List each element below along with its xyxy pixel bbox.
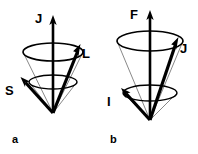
vector-F [146,10,153,120]
vector-label-F: F [130,7,138,22]
vector-I [121,88,150,120]
panel-b: F J I b [107,7,187,145]
vector-S [21,77,54,113]
vector-label-S: S [5,83,14,98]
panel-a: J L S a [5,11,90,145]
vector-label-I: I [107,94,111,109]
vector-label-J: J [180,41,187,56]
vector-I-shaft [126,94,150,121]
cone-side-left [117,41,150,120]
panel-caption-a: a [12,133,19,145]
vector-label-J: J [35,11,42,26]
vector-diagram: J L S a [0,0,198,154]
figure-canvas: J L S a [0,0,198,154]
vector-L [53,44,81,113]
vector-J-shaft [150,45,176,121]
panel-caption-b: b [110,133,117,145]
vector-label-L: L [82,46,90,61]
vector-J [49,15,56,113]
